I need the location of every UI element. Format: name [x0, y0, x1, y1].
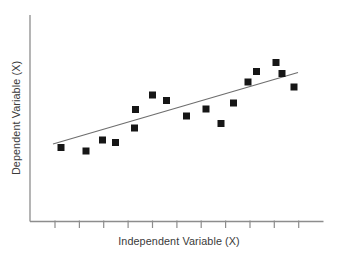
axes — [30, 15, 324, 222]
scatter-point — [291, 84, 298, 91]
scatter-point — [183, 113, 190, 120]
scatter-point — [99, 137, 106, 144]
scatter-plot-figure: Independent Variable (X) Dependent Varia… — [0, 0, 337, 258]
scatter-point — [58, 144, 65, 151]
scatter-point — [132, 106, 139, 113]
scatter-point — [203, 106, 210, 113]
scatter-point — [253, 68, 260, 75]
scatter-point — [112, 139, 119, 146]
scatter-point — [230, 100, 237, 107]
scatter-point — [245, 79, 252, 86]
scatter-point — [279, 70, 286, 77]
y-axis-label: Dependent Variable (X) — [10, 61, 22, 175]
x-axis-label: Independent Variable (X) — [118, 235, 240, 247]
scatter-point — [83, 148, 90, 155]
data-points — [58, 59, 298, 155]
scatter-point — [273, 59, 280, 66]
scatter-chart: Independent Variable (X) Dependent Varia… — [0, 0, 337, 258]
trend-line — [53, 73, 298, 145]
scatter-point — [131, 125, 138, 132]
scatter-point — [163, 97, 170, 104]
scatter-point — [218, 120, 225, 127]
scatter-point — [149, 92, 156, 99]
